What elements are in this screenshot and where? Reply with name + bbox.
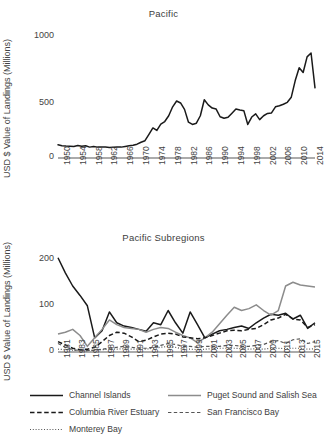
legend-item-label: Monterey Bay bbox=[69, 424, 122, 434]
series-line-pacific bbox=[58, 53, 315, 147]
x-tick-label: 1989 bbox=[121, 339, 131, 358]
x-tick-label: 2013 bbox=[297, 339, 307, 358]
x-tick-label: 1966 bbox=[125, 146, 135, 165]
legend-item-label: Channel Islands bbox=[69, 390, 131, 400]
chart-pacific: Pacific USD $ Value of Landings (Million… bbox=[0, 0, 327, 215]
x-tick-label: 1954 bbox=[78, 146, 88, 165]
legend-item-label: Puget Sound and Salish Sea bbox=[207, 390, 317, 400]
x-tick-label: 2002 bbox=[268, 146, 278, 165]
x-tick-label: 1986 bbox=[204, 146, 214, 165]
x-tick-label: 1994 bbox=[236, 146, 246, 165]
x-tick-label: 1999 bbox=[194, 339, 204, 358]
x-tick-label: 1991 bbox=[135, 339, 145, 358]
x-tick-label: 1993 bbox=[150, 339, 160, 358]
figure-panel-group: Pacific USD $ Value of Landings (Million… bbox=[0, 0, 327, 447]
legend-line-swatch-icon bbox=[30, 391, 63, 400]
x-tick-label: 1982 bbox=[189, 146, 199, 165]
x-tick-label: 2005 bbox=[238, 339, 248, 358]
legend-item-label: Columbia River Estuary bbox=[69, 407, 159, 417]
x-tick-label: 1985 bbox=[91, 339, 101, 358]
legend-item[interactable]: Monterey Bay bbox=[30, 424, 122, 434]
x-tick-label: 2014 bbox=[315, 146, 325, 165]
x-tick-label: 1990 bbox=[220, 146, 230, 165]
legend-item[interactable]: San Francisco Bay bbox=[168, 407, 279, 417]
x-tick-label: 2011 bbox=[282, 340, 292, 358]
x-tick-label: 2009 bbox=[268, 339, 278, 358]
legend-line-swatch-icon bbox=[30, 408, 63, 417]
x-tick-label: 1978 bbox=[173, 146, 183, 165]
x-tick-label: 2001 bbox=[209, 339, 219, 358]
chart-pacific-subregions: Pacific Subregions USD $ Value of Landin… bbox=[0, 215, 327, 447]
x-tick-label: 1970 bbox=[141, 146, 151, 165]
x-tick-label: 1998 bbox=[252, 146, 262, 165]
x-tick-label: 2006 bbox=[283, 146, 293, 165]
x-tick-label: 2003 bbox=[224, 339, 234, 358]
x-tick-label: 1962 bbox=[109, 146, 119, 165]
x-tick-label: 2015 bbox=[312, 339, 322, 358]
chart-legend: Channel IslandsPuget Sound and Salish Se… bbox=[0, 390, 327, 447]
x-tick-label: 1983 bbox=[77, 339, 87, 358]
legend-line-swatch-icon bbox=[30, 425, 63, 434]
legend-item[interactable]: Columbia River Estuary bbox=[30, 407, 159, 417]
x-tick-label: 1997 bbox=[179, 339, 189, 358]
legend-line-swatch-icon bbox=[168, 408, 201, 417]
x-tick-label: 1995 bbox=[165, 339, 175, 358]
legend-item[interactable]: Puget Sound and Salish Sea bbox=[168, 390, 317, 400]
x-tick-label: 1981 bbox=[62, 339, 72, 358]
legend-item[interactable]: Channel Islands bbox=[30, 390, 131, 400]
x-tick-label: 2007 bbox=[253, 339, 263, 358]
legend-item-label: San Francisco Bay bbox=[207, 407, 279, 417]
series-line-channel-islands bbox=[58, 258, 315, 338]
x-tick-label: 2010 bbox=[299, 146, 309, 165]
plot-area-pacific bbox=[0, 0, 327, 215]
x-tick-label: 1987 bbox=[106, 339, 116, 358]
x-tick-label: 1958 bbox=[94, 146, 104, 165]
legend-line-swatch-icon bbox=[168, 391, 201, 400]
x-tick-label: 1974 bbox=[157, 146, 167, 165]
x-tick-label: 1950 bbox=[62, 146, 72, 165]
